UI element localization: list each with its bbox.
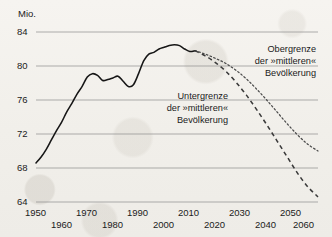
- lower-annotation: Untergrenze der »mittleren« Bevölkerung: [167, 91, 228, 125]
- x-tick-1990: 1990: [127, 207, 148, 218]
- x-tick-2010: 2010: [178, 207, 199, 218]
- upper-annotation: Obergrenze der »mittleren« Bevölkerung: [255, 44, 316, 78]
- upper-annotation-line-1: Obergrenze: [267, 44, 316, 54]
- y-axis-unit-label: Mio.: [18, 8, 36, 19]
- y-tick-76: 76: [17, 94, 28, 105]
- x-tick-2000: 2000: [153, 219, 174, 230]
- x-axis-tick-labels-lower-row: 1960 1980 2000 2020 2040 2060: [51, 219, 314, 230]
- x-tick-2040: 2040: [255, 219, 276, 230]
- y-tick-84: 84: [17, 26, 28, 37]
- y-tick-64: 64: [17, 196, 28, 207]
- upper-annotation-line-3: Bevölkerung: [265, 68, 316, 78]
- x-tick-2050: 2050: [280, 207, 301, 218]
- lower-annotation-line-3: Bevölkerung: [177, 115, 228, 125]
- chart-svg: Mio. 84 80 76 72 68 64 1950 1970 1990 20…: [0, 0, 332, 237]
- x-tick-2020: 2020: [204, 219, 225, 230]
- upper-annotation-line-2: der »mittleren«: [255, 56, 316, 66]
- y-axis-tick-labels: 84 80 76 72 68 64: [17, 26, 28, 207]
- x-tick-1960: 1960: [51, 219, 72, 230]
- x-tick-2030: 2030: [229, 207, 250, 218]
- x-tick-1980: 1980: [102, 219, 123, 230]
- x-tick-1970: 1970: [76, 207, 97, 218]
- y-tick-72: 72: [17, 128, 28, 139]
- x-tick-1950: 1950: [25, 207, 46, 218]
- population-projection-chart: Mio. 84 80 76 72 68 64 1950 1970 1990 20…: [0, 0, 332, 237]
- x-axis-tick-labels-upper-row: 1950 1970 1990 2010 2030 2050: [25, 207, 301, 218]
- lower-annotation-line-1: Untergrenze: [177, 91, 228, 101]
- lower-annotation-line-2: der »mittleren«: [167, 103, 228, 113]
- y-tick-68: 68: [17, 162, 28, 173]
- x-tick-2060: 2060: [293, 219, 314, 230]
- y-tick-80: 80: [17, 60, 28, 71]
